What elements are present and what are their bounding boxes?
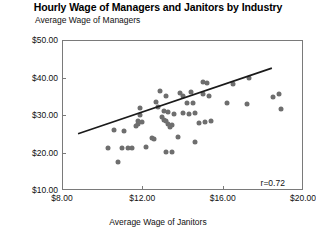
correlation-annotation: r=0.72 (261, 178, 285, 188)
trend-line (0, 0, 316, 236)
scatter-chart: Hourly Wage of Managers and Janitors by … (0, 0, 316, 236)
x-axis-label: Average Wage of Janitors (0, 217, 316, 227)
trend-line-segment (78, 68, 272, 134)
